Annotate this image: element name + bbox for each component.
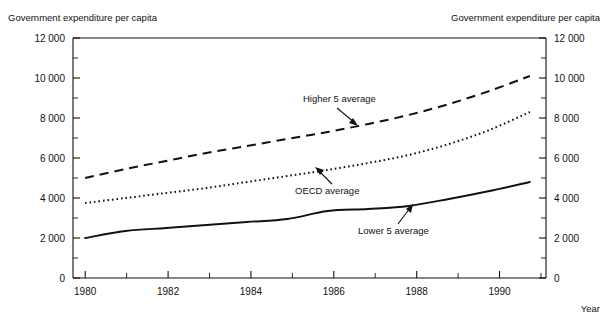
x-tick-label-1986: 1986 [323, 286, 346, 297]
y-tick-label-right-2: 4 000 [554, 193, 579, 204]
x-tick-label-1980: 1980 [74, 286, 97, 297]
y-tick-label-left-4: 8 000 [40, 113, 65, 124]
x-axis-labels: 1980 1982 1984 1986 1988 1990 [74, 286, 511, 297]
chart-figure: Government expenditure per capita Govern… [0, 0, 608, 319]
y-axis-left-ticks [73, 38, 80, 278]
y-axis-left-labels: 0 2 000 4 000 6 000 8 000 10 000 12 000 [34, 33, 65, 284]
chart-svg: Government expenditure per capita Govern… [0, 0, 608, 319]
y-tick-label-left-2: 4 000 [40, 193, 65, 204]
y-axis-right-labels: 0 2 000 4 000 6 000 8 000 10 000 12 000 [554, 33, 585, 284]
y-tick-label-left-3: 6 000 [40, 153, 65, 164]
y-tick-label-right-4: 8 000 [554, 113, 579, 124]
x-axis-title: Year [581, 303, 600, 314]
y-tick-label-right-1: 2 000 [554, 233, 579, 244]
y-tick-label-right-6: 12 000 [554, 33, 585, 44]
x-axis-ticks [85, 271, 541, 278]
annotation-oecd-average: OECD average [295, 167, 359, 196]
x-tick-label-1982: 1982 [157, 286, 180, 297]
y-tick-label-left-5: 10 000 [34, 73, 65, 84]
y-tick-label-right-0: 0 [554, 273, 560, 284]
x-tick-label-1984: 1984 [240, 286, 263, 297]
series-line-higher-5-average [85, 76, 530, 178]
y-tick-label-left-1: 2 000 [40, 233, 65, 244]
arrowhead-oecd-average [315, 167, 324, 175]
x-tick-label-1990: 1990 [488, 286, 511, 297]
y-tick-label-left-0: 0 [59, 273, 65, 284]
y-axis-right-ticks [539, 38, 546, 278]
y-tick-label-right-3: 6 000 [554, 153, 579, 164]
annotation-label-lower-5-average: Lower 5 average [358, 225, 429, 236]
plot-frame [73, 38, 546, 278]
y-tick-label-left-6: 12 000 [34, 33, 65, 44]
annotation-label-oecd-average: OECD average [295, 185, 359, 196]
chart-title-left: Government expenditure per capita [8, 12, 158, 23]
annotation-higher-5-average: Higher 5 average [303, 93, 376, 126]
x-tick-label-1988: 1988 [406, 286, 429, 297]
y-tick-label-right-5: 10 000 [554, 73, 585, 84]
annotation-label-higher-5-average: Higher 5 average [303, 93, 376, 104]
chart-title-right: Government expenditure per capita [451, 12, 601, 23]
